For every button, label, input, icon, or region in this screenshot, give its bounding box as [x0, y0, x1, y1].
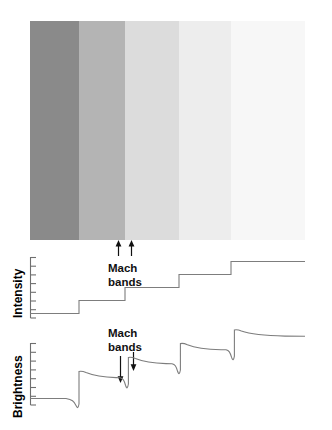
brightness-callout-line1: Mach — [108, 327, 137, 339]
gray-band-1 — [30, 21, 79, 240]
brightness-callout-line2: bands — [108, 341, 142, 353]
intensity-panel: Intensity — [11, 257, 305, 318]
brightness-y-ticks — [31, 344, 37, 406]
gray-band-3 — [125, 21, 179, 240]
gray-band-4 — [179, 21, 231, 240]
intensity-y-ticks — [31, 258, 37, 319]
intensity-axis-label: Intensity — [11, 268, 25, 318]
gray-band-5 — [231, 21, 305, 240]
intensity-mach-bands-callout: Mach bands — [108, 240, 142, 288]
mach-bands-figure: Mach bands Intensity Mach bands — [0, 0, 332, 430]
grayscale-strip-panel — [30, 21, 305, 240]
brightness-mach-bands-callout: Mach bands — [108, 327, 142, 383]
up-arrow-right-icon — [129, 240, 135, 256]
brightness-panel: Brightness — [11, 330, 305, 418]
brightness-curve — [30, 330, 305, 408]
up-arrow-left-icon — [116, 240, 122, 256]
down-arrow-right-icon — [131, 352, 137, 371]
intensity-callout-line1: Mach — [108, 262, 137, 274]
brightness-axis-label: Brightness — [11, 355, 25, 418]
intensity-callout-line2: bands — [108, 276, 142, 288]
intensity-staircase-curve — [30, 262, 305, 314]
gray-band-2 — [79, 21, 125, 240]
